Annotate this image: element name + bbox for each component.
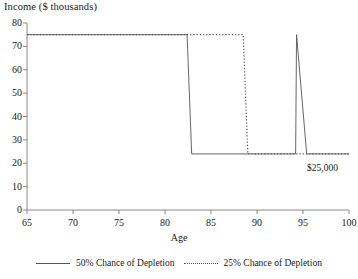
value-annotation-label: $25,000 bbox=[307, 163, 338, 173]
y-tick-label: 10 bbox=[0, 182, 22, 192]
chart-legend: 50% Chance of Depletion 25% Chance of De… bbox=[0, 258, 358, 268]
x-tick-label: 95 bbox=[288, 218, 318, 228]
series-lines bbox=[27, 35, 349, 154]
x-tick-label: 70 bbox=[58, 218, 88, 228]
legend-label-25-percent: 25% Chance of Depletion bbox=[224, 258, 322, 268]
x-tick-label: 75 bbox=[104, 218, 134, 228]
x-tick-label: 90 bbox=[242, 218, 272, 228]
y-tick-label: 70 bbox=[0, 41, 22, 51]
y-tick-label: 80 bbox=[0, 18, 22, 28]
y-tick-label: 0 bbox=[0, 205, 22, 215]
axes bbox=[23, 23, 349, 214]
legend-line-dotted-icon bbox=[184, 259, 218, 267]
x-axis-title: Age bbox=[0, 232, 358, 243]
legend-item-50-percent: 50% Chance of Depletion bbox=[36, 258, 174, 268]
income-depletion-chart: Income ($ thousands) 01020304050607080 6… bbox=[0, 0, 358, 279]
x-tick-label: 65 bbox=[12, 218, 42, 228]
legend-item-25-percent: 25% Chance of Depletion bbox=[184, 258, 322, 268]
y-tick-label: 50 bbox=[0, 88, 22, 98]
legend-label-50-percent: 50% Chance of Depletion bbox=[76, 258, 174, 268]
x-tick-label: 100 bbox=[334, 218, 358, 228]
y-tick-label: 20 bbox=[0, 158, 22, 168]
x-tick-label: 85 bbox=[196, 218, 226, 228]
legend-line-solid-icon bbox=[36, 259, 70, 267]
x-tick-label: 80 bbox=[150, 218, 180, 228]
y-tick-label: 60 bbox=[0, 65, 22, 75]
series-line-1 bbox=[27, 35, 349, 154]
y-tick-label: 40 bbox=[0, 112, 22, 122]
y-tick-label: 30 bbox=[0, 135, 22, 145]
